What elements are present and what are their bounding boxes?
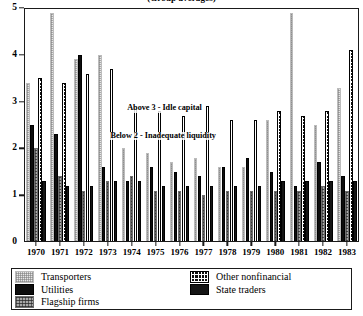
legend-column-left: TransportersUtilitiesFlagship firms	[15, 271, 99, 308]
bar-statetraders-1977	[210, 186, 213, 242]
bar-utilities-1981	[294, 186, 297, 242]
legend-item-flagship: Flagship firms	[15, 296, 99, 308]
bar-flagship-1970	[34, 148, 37, 242]
x-tick-label-1973: 1973	[99, 248, 117, 257]
bar-utilities-1974	[126, 181, 129, 242]
bar-transporters-1980	[266, 120, 269, 242]
bar-flagship-1973	[106, 181, 109, 242]
x-tick-label-1981: 1981	[290, 248, 308, 257]
bar-utilities-1970	[30, 125, 33, 242]
x-tick-mark-1977	[203, 242, 204, 246]
bar-utilities-1972	[78, 55, 81, 242]
legend-swatch-othernonfin	[190, 271, 209, 283]
bar-othernonfin-1973	[110, 69, 113, 242]
bar-flagship-1978	[226, 191, 229, 242]
bar-group-1980	[263, 8, 287, 242]
bar-utilities-1979	[246, 158, 249, 242]
bar-statetraders-1981	[305, 181, 308, 242]
legend-label-statetraders: State traders	[216, 285, 266, 295]
x-tick-label-1978: 1978	[218, 248, 236, 257]
bar-othernonfin-1972	[86, 74, 89, 242]
chart-annotation-1: Above 3 - Idle capital	[126, 104, 203, 113]
bar-utilities-1971	[54, 134, 57, 242]
bar-flagship-1983	[345, 191, 348, 242]
y-tick-label-4: 4	[12, 50, 17, 60]
x-tick-mark-1975	[155, 242, 156, 246]
y-tick-label-1: 1	[12, 190, 17, 200]
bar-flagship-1980	[274, 191, 277, 242]
chart-annotation-2: Below 2 - Inadequate liquidity	[109, 132, 217, 141]
x-tick-mark-1974	[131, 242, 132, 246]
bar-utilities-1977	[198, 176, 201, 242]
bar-statetraders-1980	[281, 181, 284, 242]
y-tick-label-2: 2	[12, 144, 17, 154]
bar-othernonfin-1971	[62, 83, 65, 242]
x-tick-mark-1982	[322, 242, 323, 246]
bar-group-1981	[287, 8, 311, 242]
bar-othernonfin-1977	[206, 106, 209, 242]
legend-label-utilities: Utilities	[41, 285, 73, 295]
x-tick-mark-1972	[83, 242, 84, 246]
bar-statetraders-1973	[114, 181, 117, 242]
x-tick-mark-1971	[59, 242, 60, 246]
chart-legend: TransportersUtilitiesFlagship firms Othe…	[11, 268, 352, 310]
bar-statetraders-1974	[138, 181, 141, 242]
bar-transporters-1981	[290, 13, 293, 242]
bar-group-1983	[335, 8, 359, 242]
x-tick-mark-1978	[227, 242, 228, 246]
x-tick-label-1975: 1975	[147, 248, 165, 257]
bar-transporters-1982	[314, 125, 317, 242]
bar-statetraders-1971	[66, 186, 69, 242]
x-tick-label-1982: 1982	[314, 248, 332, 257]
legend-swatch-statetraders	[190, 284, 209, 296]
bar-transporters-1973	[98, 55, 101, 242]
legend-label-othernonfin: Other nonfinancial	[216, 272, 291, 282]
bar-statetraders-1978	[234, 186, 237, 242]
bar-statetraders-1975	[162, 186, 165, 242]
x-tick-label-1976: 1976	[171, 248, 189, 257]
y-tick-label-5: 5	[12, 3, 17, 13]
x-tick-label-1983: 1983	[338, 248, 356, 257]
bar-transporters-1971	[50, 13, 53, 242]
x-tick-mark-1976	[179, 242, 180, 246]
legend-item-transporters: Transporters	[15, 271, 99, 283]
bar-othernonfin-1979	[254, 120, 257, 242]
bar-utilities-1982	[317, 162, 320, 242]
bars-layer	[24, 8, 359, 242]
bar-flagship-1974	[130, 176, 133, 242]
x-tick-mark-1980	[275, 242, 276, 246]
bar-group-1979	[239, 8, 263, 242]
y-tick-label-0: 0	[12, 237, 17, 247]
bar-flagship-1971	[58, 176, 61, 242]
legend-swatch-flagship	[15, 296, 34, 308]
bar-utilities-1980	[270, 172, 273, 242]
bar-statetraders-1979	[258, 186, 261, 242]
x-tick-mark-1983	[346, 242, 347, 246]
bar-group-1982	[311, 8, 335, 242]
bar-othernonfin-1981	[301, 116, 304, 242]
bar-group-1977	[192, 8, 216, 242]
bar-flagship-1982	[321, 186, 324, 242]
legend-column-right: Other nonfinancialState traders	[190, 271, 291, 296]
bar-flagship-1975	[154, 191, 157, 242]
bar-flagship-1976	[178, 191, 181, 242]
x-tick-label-1979: 1979	[242, 248, 260, 257]
bar-transporters-1972	[74, 59, 77, 242]
bar-statetraders-1982	[329, 181, 332, 242]
bar-utilities-1978	[222, 167, 225, 242]
bar-statetraders-1970	[42, 181, 45, 242]
bar-utilities-1973	[102, 167, 105, 242]
bar-othernonfin-1983	[349, 50, 352, 242]
bar-transporters-1974	[122, 148, 125, 242]
x-tick-label-1980: 1980	[266, 248, 284, 257]
bar-statetraders-1972	[90, 186, 93, 242]
legend-item-othernonfin: Other nonfinancial	[190, 271, 291, 283]
bar-flagship-1979	[250, 191, 253, 242]
bar-transporters-1979	[242, 167, 245, 242]
x-tick-label-1974: 1974	[123, 248, 141, 257]
legend-label-transporters: Transporters	[41, 272, 91, 282]
bar-transporters-1978	[218, 167, 221, 242]
chart-title: (Group averages)	[0, 0, 363, 3]
bar-flagship-1972	[82, 191, 85, 242]
bar-group-1975	[144, 8, 168, 242]
